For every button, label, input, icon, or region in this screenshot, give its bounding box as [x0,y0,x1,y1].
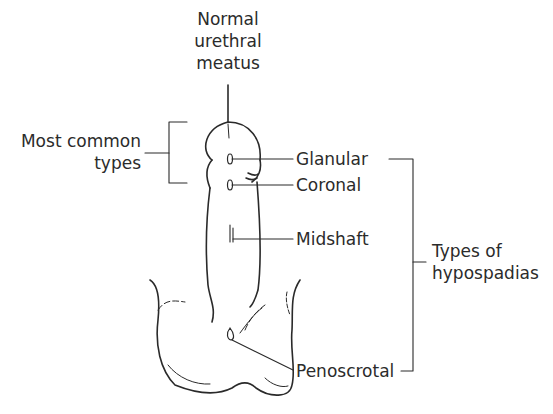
label-line: urethral [188,30,268,52]
label-line: types [10,152,141,174]
label-line: Normal [188,8,268,30]
midshaft-meatus [230,225,233,242]
label-line: meatus [188,52,268,74]
glans-outline [206,122,261,160]
most-common-types-label: Most common types [10,130,141,174]
types-of-hypospadias-label: Types of hypospadias [432,240,539,284]
midshaft-label: Midshaft [296,228,369,250]
glanular-label: Glanular [296,148,368,170]
coronal-label: Coronal [296,174,361,196]
common-types-bracket [169,122,187,183]
types-bracket [389,159,413,371]
label-line: Most common [10,130,141,152]
scrotum-outline [150,280,300,395]
penoscrotal-label: Penoscrotal [296,360,394,382]
hypospadias-illustration [0,0,553,414]
shaft-right-outline [250,182,260,307]
label-line: hypospadias [432,262,539,284]
label-line: Types of [432,240,539,262]
penoscrotal-meatus [227,328,233,340]
normal-meatus-label: Normal urethral meatus [188,8,268,74]
penoscrotal-leader [232,340,293,370]
shaft-left-outline [206,188,213,322]
